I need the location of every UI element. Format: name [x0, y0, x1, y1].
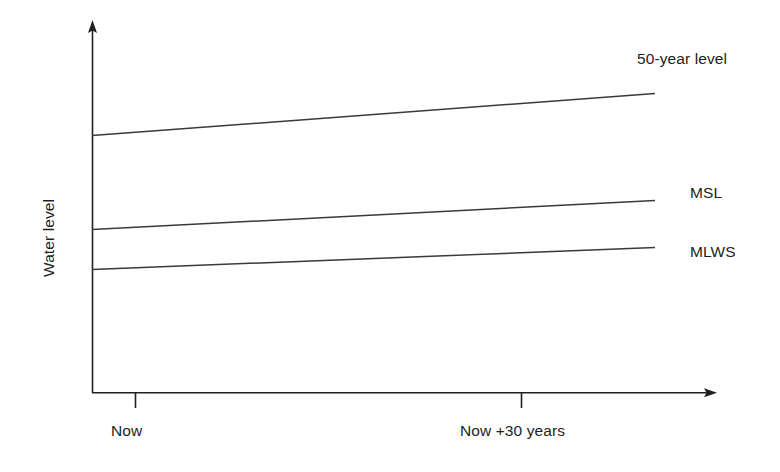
x-tick-label-now-plus-30-years: Now +30 years	[460, 423, 565, 439]
x-tick-label-now: Now	[111, 423, 142, 439]
chart-figure: Water level 50-year level MSL MLWS Now N…	[0, 0, 780, 472]
series-label-msl: MSL	[690, 185, 722, 201]
series-line-msl	[92, 201, 655, 230]
x-axis	[92, 388, 717, 397]
series-label-mlws: MLWS	[690, 244, 736, 260]
series-line-mlws	[92, 248, 655, 270]
y-axis-title: Water level	[41, 199, 57, 277]
y-axis	[88, 20, 97, 393]
series-line-50-year-level	[92, 94, 655, 136]
series-label-50-year-level: 50-year level	[637, 51, 727, 67]
chart-plot-area	[0, 0, 780, 472]
x-axis-ticks	[136, 393, 522, 408]
series-lines	[92, 94, 655, 270]
